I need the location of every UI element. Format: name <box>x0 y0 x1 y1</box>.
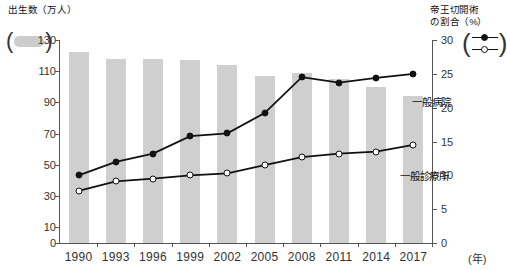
datapoint-0-2017 <box>410 70 417 77</box>
left-tick-130 <box>55 40 59 41</box>
datapoint-1-2002 <box>224 170 231 177</box>
left-ticklabel-30: 30 <box>16 190 56 202</box>
legend-open-paren: ( <box>6 30 13 52</box>
right-tick-30 <box>433 40 437 41</box>
series-label-hospital: 一般病院 <box>412 94 451 109</box>
plot-area: 1990199319961999200220052008201120142017… <box>60 40 432 243</box>
series-line-1 <box>79 145 414 191</box>
datapoint-1-2005 <box>261 162 268 169</box>
series-label-clinic: 一般診療所 <box>400 168 449 183</box>
datapoint-0-2002 <box>224 130 231 137</box>
x-axis-label-2017: 2017 <box>399 250 427 264</box>
lines-layer <box>60 40 432 243</box>
left-ticklabel-70: 70 <box>16 128 56 140</box>
datapoint-1-1999 <box>187 172 194 179</box>
datapoint-0-2011 <box>336 79 343 86</box>
datapoint-0-2014 <box>373 74 380 81</box>
x-tick-2002 <box>246 243 247 247</box>
x-tick-2017 <box>432 243 433 247</box>
left-ticklabel-0: 0 <box>16 237 56 249</box>
x-axis-unit-label: (年) <box>468 250 486 266</box>
datapoint-1-2017 <box>410 141 417 148</box>
x-tick-2005 <box>283 243 284 247</box>
series-line-0 <box>79 74 414 176</box>
left-tick-50 <box>55 165 59 166</box>
right-ticklabel-0: 0 <box>441 237 481 249</box>
datapoint-1-1990 <box>75 187 82 194</box>
datapoint-1-2008 <box>298 154 305 161</box>
line-legend-close-paren: ) <box>499 33 507 54</box>
datapoint-0-1990 <box>75 172 82 179</box>
left-tick-90 <box>55 102 59 103</box>
x-tick-1996 <box>172 243 173 247</box>
x-axis-label-1999: 1999 <box>176 250 204 264</box>
datapoint-0-1996 <box>150 150 157 157</box>
x-axis-label-1996: 1996 <box>139 250 167 264</box>
left-tick-70 <box>55 134 59 135</box>
datapoint-1-2011 <box>336 150 343 157</box>
datapoint-0-1999 <box>187 133 194 140</box>
left-ticklabel-10: 10 <box>16 221 56 233</box>
right-ticklabel-25: 25 <box>441 68 481 80</box>
left-ticklabel-110: 110 <box>16 65 56 77</box>
x-axis-label-1990: 1990 <box>65 250 93 264</box>
datapoint-1-2014 <box>373 148 380 155</box>
x-axis-label-1993: 1993 <box>102 250 130 264</box>
left-tick-10 <box>55 227 59 228</box>
datapoint-1-1996 <box>150 175 157 182</box>
x-tick-2008 <box>320 243 321 247</box>
x-tick-2011 <box>358 243 359 247</box>
x-axis-label-2005: 2005 <box>251 250 279 264</box>
right-ticklabel-5: 5 <box>441 203 481 215</box>
x-tick-1999 <box>209 243 210 247</box>
x-tick-1990 <box>97 243 98 247</box>
left-ticklabel-50: 50 <box>16 159 56 171</box>
x-tick-2014 <box>395 243 396 247</box>
left-axis-title: 出生数（万人） <box>8 4 77 16</box>
datapoint-0-2005 <box>261 110 268 117</box>
left-tick-30 <box>55 196 59 197</box>
left-tick-110 <box>55 71 59 72</box>
x-axis-label-2008: 2008 <box>288 250 316 264</box>
right-tick-5 <box>433 209 437 210</box>
right-tick-15 <box>433 142 437 143</box>
x-axis-label-2011: 2011 <box>325 250 352 264</box>
right-axis-title: 帝王切開術 の割合（%） <box>430 4 487 28</box>
left-ticklabel-90: 90 <box>16 96 56 108</box>
left-tick-0 <box>55 243 59 244</box>
datapoint-0-2008 <box>298 74 305 81</box>
x-tick-1993 <box>134 243 135 247</box>
right-ticklabel-30: 30 <box>441 34 481 46</box>
right-tick-0 <box>433 243 437 244</box>
right-ticklabel-15: 15 <box>441 136 481 148</box>
datapoint-1-1993 <box>112 178 119 185</box>
left-axis-ticklabels: 01030507090110130 <box>16 40 56 243</box>
x-axis-label-2014: 2014 <box>362 250 390 264</box>
right-tick-25 <box>433 74 437 75</box>
right-axis-ticklabels: 051015202530 <box>441 40 481 243</box>
datapoint-0-1993 <box>112 158 119 165</box>
left-ticklabel-130: 130 <box>16 34 56 46</box>
x-axis-label-2002: 2002 <box>213 250 241 264</box>
